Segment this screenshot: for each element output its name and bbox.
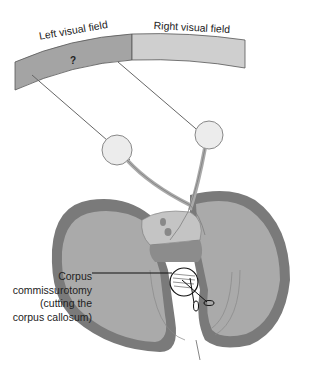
callout-line-3: (cutting the	[8, 297, 92, 311]
callout-line-1: Corpus	[8, 270, 92, 284]
optic-nerves	[127, 148, 205, 210]
unknown-marker: ?	[70, 55, 76, 67]
corpus-commissurotomy-label: Corpus commissurotomy (cutting the corpu…	[8, 270, 92, 324]
right-visual-field-region	[132, 34, 245, 68]
optic-chiasm-region	[142, 211, 202, 245]
callout-line-2: commissurotomy	[8, 284, 92, 298]
right-eye	[195, 121, 223, 149]
callout-line-4: corpus callosum)	[8, 311, 92, 325]
visual-field-band	[15, 34, 245, 90]
